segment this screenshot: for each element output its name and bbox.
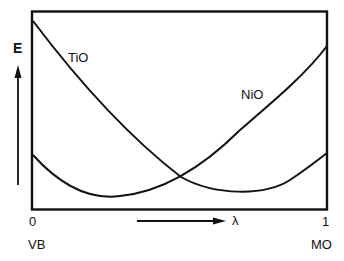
energy-arrow-head-icon bbox=[15, 65, 22, 78]
x-axis-label: λ bbox=[232, 214, 239, 227]
vb-label: VB bbox=[28, 238, 45, 251]
nio-curve bbox=[33, 46, 327, 197]
mo-label: MO bbox=[311, 238, 332, 251]
y-axis-label: E bbox=[13, 41, 22, 55]
energy-diagram bbox=[0, 0, 344, 261]
nio-label: NiO bbox=[241, 88, 263, 101]
tio-label: TiO bbox=[68, 51, 88, 64]
tio-curve bbox=[33, 21, 327, 192]
lambda-arrow-head-icon bbox=[213, 218, 226, 225]
plot-frame bbox=[32, 12, 327, 210]
x-tick-0: 0 bbox=[29, 215, 36, 228]
x-tick-1: 1 bbox=[322, 215, 329, 228]
